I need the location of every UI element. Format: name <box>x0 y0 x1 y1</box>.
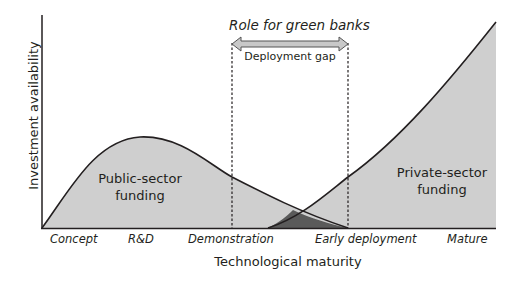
x-tick-concept: Concept <box>50 232 98 246</box>
chart-title: Role for green banks <box>229 17 351 33</box>
double-arrow-icon <box>232 37 348 51</box>
public-sector-label-line2: funding <box>95 187 185 204</box>
private-sector-label: Private-sector funding <box>392 164 492 198</box>
x-axis-label: Technological maturity <box>208 254 368 269</box>
public-sector-label: Public-sector funding <box>95 170 185 204</box>
x-tick-early-deployment: Early deployment <box>315 232 416 246</box>
y-axis-label: Investment availability <box>26 41 41 191</box>
public-sector-label-line1: Public-sector <box>95 170 185 187</box>
private-sector-label-line2: funding <box>392 181 492 198</box>
x-tick-demonstration: Demonstration <box>188 232 274 246</box>
x-tick-rd: R&D <box>128 232 154 246</box>
private-sector-label-line1: Private-sector <box>392 164 492 181</box>
gap-label: Deployment gap <box>240 50 340 63</box>
x-tick-mature: Mature <box>447 232 488 246</box>
